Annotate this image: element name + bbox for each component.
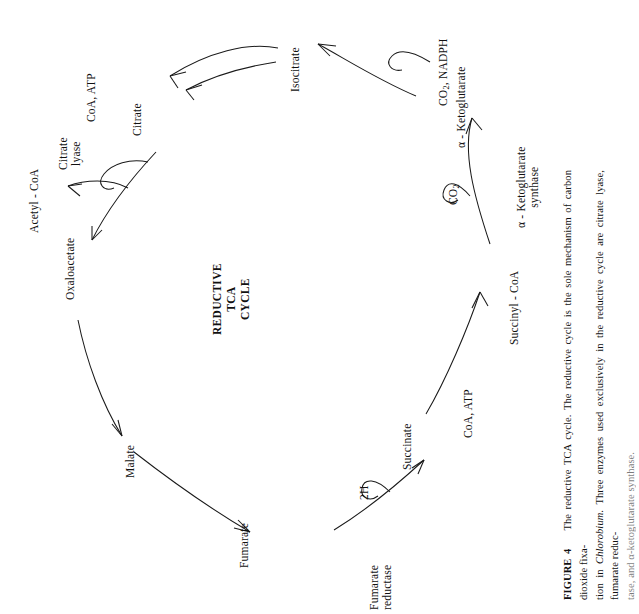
enzyme-fumarate-reductase-line1: Fumarate xyxy=(368,565,381,610)
cofactor-co2: CO2 xyxy=(447,184,461,205)
arrow-succinate-to-succinylcoa xyxy=(426,292,488,414)
caption-line-1: FIGURE 4 The reductive TCA cycle. The re… xyxy=(560,170,592,600)
enzyme-citrate-lyase: Citrate lyase xyxy=(57,137,83,170)
caption-text-2a: tion in xyxy=(594,564,605,600)
metabolite-fumarate: Fumarate xyxy=(238,523,251,568)
arrow-oxaloacetate-to-malate xyxy=(78,320,122,436)
metabolite-citrate: Citrate xyxy=(131,103,144,136)
arrow-alphakg-to-isocitrate xyxy=(318,44,430,96)
cycle-title-line1: REDUCTIVE xyxy=(210,263,224,335)
arrow-isocitrate-to-citrate-2 xyxy=(186,62,276,100)
cycle-title-line2: TCA xyxy=(224,263,238,335)
enzyme-citrate-lyase-line2: lyase xyxy=(70,137,83,170)
cofactor-co2-nadph: CO2, NADPH xyxy=(437,39,451,107)
figure-caption: FIGURE 4 The reductive TCA cycle. The re… xyxy=(560,170,639,600)
enzyme-akg-synthase-line2: synthase xyxy=(528,146,541,228)
metabolite-succinyl-coa: Succinyl - CoA xyxy=(508,271,521,345)
metabolite-oxaloacetate: Oxaloacetate xyxy=(64,238,77,300)
cofactor-2h: 2H xyxy=(358,486,371,500)
metabolite-alpha-ketoglutarate: α - Ketoglutarate xyxy=(455,66,468,148)
metabolite-malate: Malate xyxy=(124,445,137,478)
metabolite-acetyl-coa: Acetyl - CoA xyxy=(28,169,41,233)
enzyme-fumarate-reductase-line2: reductase xyxy=(381,565,394,610)
enzyme-citrate-lyase-line1: Citrate xyxy=(57,137,70,170)
caption-line-3: tase, and α-ketoglutarate synthase. xyxy=(623,170,639,600)
enzyme-akg-synthase-line1: α - Ketoglutarate xyxy=(515,146,528,228)
cycle-title: REDUCTIVE TCA CYCLE xyxy=(210,263,252,335)
cofactor-coa-atp-succinyl: CoA, ATP xyxy=(462,389,475,438)
co2-subscript: 2 xyxy=(442,85,451,89)
co2-subscript-2: 2 xyxy=(452,184,461,188)
cycle-title-line3: CYCLE xyxy=(238,263,252,335)
arrow-malate-to-fumarate xyxy=(134,452,250,532)
cofactor-coa-atp-citrate: CoA, ATP xyxy=(85,73,98,122)
caption-line-2: tion in Chlorobium. Three enzymes used e… xyxy=(592,170,624,600)
caption-figure-label: FIGURE 4 xyxy=(562,549,573,600)
enzyme-alpha-ketoglutarate-synthase: α - Ketoglutarate synthase xyxy=(515,146,541,228)
metabolite-isocitrate: Isocitrate xyxy=(289,47,302,92)
organism-name: Chlorobium. xyxy=(594,510,605,564)
arrow-isocitrate-to-citrate xyxy=(170,46,278,88)
arrow-fumarate-to-succinate xyxy=(334,460,424,530)
metabolite-succinate: Succinate xyxy=(401,423,414,470)
enzyme-fumarate-reductase: Fumarate reductase xyxy=(368,565,394,610)
